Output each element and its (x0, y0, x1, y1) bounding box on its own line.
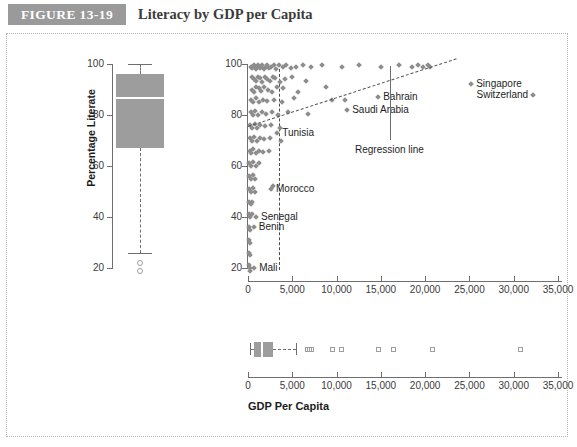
gdp-x-tick (248, 372, 249, 377)
scatter-y-ticklabel: 100 (216, 58, 242, 69)
scatter-x-tick (292, 276, 293, 281)
regression-line-label: Regression line (355, 144, 424, 155)
scatter-x-axis-line (248, 281, 562, 282)
scatter-x-tick (514, 276, 515, 281)
boxplot-y-tick (107, 268, 113, 269)
scatter-point-label-benin: Benin (259, 221, 285, 232)
scatter-point-label-morocco: Morocco (276, 183, 314, 194)
scatter-y-tick (242, 115, 248, 116)
scatter-point (323, 84, 329, 90)
scatter-point (396, 62, 402, 68)
scatter-point-labeled (251, 265, 257, 271)
scatter-point (252, 189, 258, 195)
scatter-x-ticklabel: 35,000 (534, 284, 577, 295)
gdp-boxplot-right-cap (296, 343, 297, 355)
boxplot-median-line (116, 97, 164, 99)
x-axis-title: GDP Per Capita (0, 400, 577, 412)
chart-canvas: 20406080100Percentage Literate2040608010… (0, 0, 577, 447)
scatter-x-tick (248, 276, 249, 281)
gdp-x-tick (292, 372, 293, 377)
gdp-boxplot-right-whisker (273, 349, 296, 350)
scatter-x-ticklabel: 15,000 (357, 284, 405, 295)
gdp-x-ticklabel: 35,000 (534, 380, 577, 391)
gdp-boxplot-outlier (339, 347, 344, 352)
scatter-point (277, 79, 283, 85)
gdp-x-ticklabel: 5,000 (268, 380, 316, 391)
scatter-point (260, 149, 266, 155)
scatter-point (291, 96, 297, 102)
scatter-point (247, 240, 253, 246)
scatter-point (269, 89, 275, 95)
scatter-point (265, 98, 271, 104)
scatter-point (308, 64, 314, 70)
regression-line-leader (390, 66, 391, 140)
gdp-boxplot-left-cap (250, 343, 251, 355)
gdp-boxplot-outlier (376, 347, 381, 352)
scatter-point (293, 64, 299, 70)
scatter-x-ticklabel: 20,000 (401, 284, 449, 295)
scatter-point (300, 62, 306, 68)
boxplot-y-ticklabel: 100 (78, 58, 104, 69)
scatter-point (271, 97, 277, 103)
scatter-point-labeled (253, 214, 259, 220)
boxplot-upper-cap (128, 64, 152, 65)
scatter-y-ticklabel: 80 (216, 109, 242, 120)
scatter-point (305, 111, 311, 117)
gdp-boxplot-outlier (430, 347, 435, 352)
vertical-reference-line (279, 64, 280, 270)
gdp-boxplot-outlier (309, 347, 314, 352)
scatter-point-labeled (468, 82, 474, 88)
scatter-x-tick (337, 276, 338, 281)
gdp-x-tick (469, 372, 470, 377)
gdp-x-ticklabel: 20,000 (401, 380, 449, 391)
scatter-x-ticklabel: 25,000 (445, 284, 493, 295)
boxplot-upper-whisker (140, 64, 141, 74)
scatter-x-ticklabel: 5,000 (268, 284, 316, 295)
scatter-x-tick (469, 276, 470, 281)
gdp-x-tick (514, 372, 515, 377)
boxplot-y-ticklabel: 40 (78, 211, 104, 222)
scatter-point (343, 97, 349, 103)
scatter-x-ticklabel: 0 (224, 284, 272, 295)
gdp-boxplot-outlier (518, 347, 523, 352)
gdp-x-ticklabel: 30,000 (490, 380, 538, 391)
boxplot-outlier (137, 260, 143, 266)
scatter-point-labeled (375, 94, 381, 100)
scatter-point-label-tunisia: Tunisia (282, 127, 314, 138)
scatter-x-ticklabel: 10,000 (313, 284, 361, 295)
scatter-point-label-bahrain: Bahrain (383, 91, 417, 102)
boxplot-y-tick (107, 115, 113, 116)
boxplot-y-tick (107, 64, 113, 65)
boxplot-y-tick (107, 166, 113, 167)
scatter-point (278, 138, 284, 144)
gdp-x-tick (337, 372, 338, 377)
scatter-point (267, 135, 273, 141)
scatter-point-label-saudi-arabia: Saudi Arabia (352, 104, 409, 115)
scatter-point (356, 62, 362, 68)
scatter-x-ticklabel: 30,000 (490, 284, 538, 295)
scatter-y-tick (242, 166, 248, 167)
scatter-point (303, 78, 309, 84)
scatter-point-label-switzerland: Switzerland (476, 89, 528, 100)
gdp-x-tick (425, 372, 426, 377)
gdp-boxplot-outlier (391, 347, 396, 352)
boxplot-lower-cap (128, 253, 152, 254)
boxplot-box (116, 74, 164, 148)
gdp-x-tick (558, 372, 559, 377)
gdp-x-ticklabel: 10,000 (313, 380, 361, 391)
scatter-point (339, 64, 345, 70)
scatter-y-ticklabel: 40 (216, 211, 242, 222)
scatter-point (261, 136, 267, 142)
scatter-point (289, 74, 295, 80)
scatter-point-label-mali: Mali (259, 262, 277, 273)
scatter-point (268, 122, 274, 128)
scatter-point (295, 89, 301, 95)
scatter-x-tick (558, 276, 559, 281)
boxplot-outlier (137, 268, 143, 274)
scatter-point (282, 76, 288, 82)
scatter-x-tick (381, 276, 382, 281)
boxplot-y-ticklabel: 20 (78, 262, 104, 273)
gdp-boxplot-outlier (330, 347, 335, 352)
scatter-point (319, 62, 325, 68)
boxplot-lower-whisker (140, 148, 141, 253)
